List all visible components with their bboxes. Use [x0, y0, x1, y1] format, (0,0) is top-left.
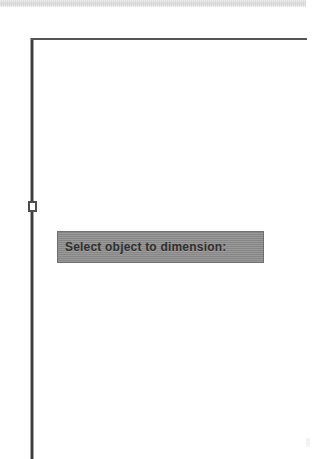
application-window: Select object to dimension:	[0, 0, 323, 459]
command-prompt-tooltip: Select object to dimension:	[57, 231, 264, 263]
drawing-canvas[interactable]	[0, 0, 323, 459]
selection-grip[interactable]	[28, 201, 37, 212]
command-prompt-text: Select object to dimension:	[65, 240, 226, 254]
canvas-artifact-mark	[306, 438, 310, 447]
